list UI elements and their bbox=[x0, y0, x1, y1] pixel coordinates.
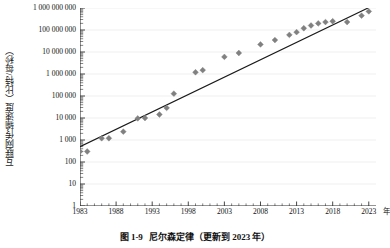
x-tick-label: 1988 bbox=[109, 208, 124, 216]
caption-number: 图 1-9 bbox=[120, 232, 143, 242]
axis-lines bbox=[80, 8, 376, 206]
y-tick-label: 100 000 bbox=[52, 92, 76, 100]
figure-caption: 图 1-9尼尔森定律（更新到 2023 年） bbox=[0, 232, 390, 243]
x-tick-label: 2008 bbox=[253, 208, 268, 216]
plot-area bbox=[80, 8, 376, 206]
x-tick-label: 1983 bbox=[73, 208, 88, 216]
x-tick-label: 2018 bbox=[325, 208, 340, 216]
y-tick-label: 10 bbox=[69, 180, 77, 188]
y-tick-label: 1 000 000 000 bbox=[33, 4, 76, 12]
y-tick-label: 1 000 bbox=[59, 136, 76, 144]
caption-text: 尼尔森定律（更新到 2023 年） bbox=[149, 232, 271, 242]
y-tick-label: 1 000 000 bbox=[46, 70, 76, 78]
gridlines bbox=[80, 8, 376, 206]
x-tick-label: 2003 bbox=[217, 208, 232, 216]
figure-nielsens-law: 互联网传输速度（比特/每秒） 1101001 00010 000100 0001… bbox=[0, 0, 390, 248]
y-tick-label: 10 000 000 bbox=[42, 48, 76, 56]
scatter-plot-svg bbox=[80, 8, 376, 206]
trend-line bbox=[80, 8, 376, 147]
minor-tick-marks bbox=[80, 8, 369, 206]
data-points bbox=[80, 9, 372, 155]
x-tick-label: 2023 bbox=[361, 208, 376, 216]
x-axis-tick-labels: 年 198319881993199820032008201320182023 bbox=[80, 208, 390, 222]
y-tick-label: 10 000 bbox=[55, 114, 76, 122]
x-tick-label: 1993 bbox=[145, 208, 160, 216]
y-axis-title: 互联网传输速度（比特/每秒） bbox=[5, 46, 14, 166]
y-axis-tick-labels: 1101001 00010 000100 0001 000 00010 000 … bbox=[16, 0, 78, 212]
y-tick-label: 100 bbox=[65, 158, 76, 166]
x-axis-unit-label: 年 bbox=[383, 208, 390, 216]
y-tick-label: 100 000 000 bbox=[39, 26, 77, 34]
x-tick-label: 1998 bbox=[181, 208, 196, 216]
x-tick-label: 2013 bbox=[289, 208, 304, 216]
